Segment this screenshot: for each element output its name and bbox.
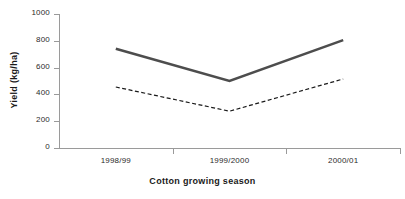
x-tick-label: 1999/2000 (173, 156, 287, 166)
x-tick-label: 2000/01 (286, 156, 400, 166)
series-line-solid (116, 40, 343, 81)
y-tick-label: 0 (6, 143, 50, 151)
y-tick (54, 68, 59, 69)
x-tick (400, 148, 401, 154)
chart-container: Yield (kg/ha) 02004006008001000 1998/991… (0, 0, 405, 199)
x-tick (173, 148, 174, 154)
x-tick-label: 1998/99 (59, 156, 173, 166)
y-tick (54, 121, 59, 122)
y-tick (54, 41, 59, 42)
y-tick (54, 94, 59, 95)
y-tick (54, 14, 59, 15)
series-line-dashed (116, 79, 343, 111)
y-tick (54, 148, 59, 149)
y-tick-label: 400 (6, 89, 50, 97)
x-axis-line (59, 148, 400, 149)
y-axis-line (59, 14, 60, 149)
y-tick-label: 800 (6, 36, 50, 44)
y-tick-label: 600 (6, 63, 50, 71)
y-tick-label: 1000 (6, 9, 50, 17)
x-tick (286, 148, 287, 154)
x-axis-title: Cotton growing season (0, 176, 405, 186)
y-tick-label: 200 (6, 116, 50, 124)
series-layer (0, 0, 405, 199)
